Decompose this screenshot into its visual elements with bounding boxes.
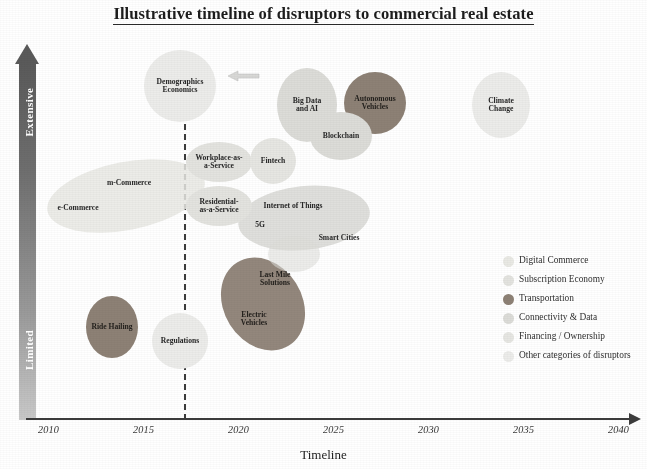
bubble-workplace-line2: a-Service bbox=[204, 161, 234, 170]
x-tick-2030: 2030 bbox=[417, 424, 440, 435]
x-tick-2025: 2025 bbox=[322, 424, 345, 435]
legend-item-other-categories: Other categories of disruptors bbox=[503, 350, 645, 362]
bubble-regulations-label: Regulations bbox=[161, 337, 199, 346]
bubble-mcommerce-label: m-Commerce bbox=[107, 179, 151, 188]
legend-swatch-transportation bbox=[503, 294, 514, 305]
legend-label-digital-commerce: Digital Commerce bbox=[519, 255, 589, 266]
bubble-5g-label: 5G bbox=[255, 221, 265, 230]
legend-swatch-digital-commerce bbox=[503, 256, 514, 267]
legend: Digital Commerce Subscription Economy Tr… bbox=[503, 255, 645, 369]
x-axis-arrowhead-icon bbox=[629, 413, 641, 425]
legend-swatch-financing-ownership bbox=[503, 332, 514, 343]
x-axis-title: Timeline bbox=[0, 447, 647, 463]
bubble-smartcities-label: Smart Cities bbox=[319, 234, 360, 243]
bubble-ridehailing-label: Ride Hailing bbox=[91, 323, 132, 332]
bubble-last-mile-solutions: Last Mile Solutions bbox=[248, 266, 302, 292]
bubble-demographics-line2: Economics bbox=[162, 85, 197, 94]
bubble-ride-hailing: Ride Hailing bbox=[86, 296, 138, 358]
bubble-electric-line2: Vehicles bbox=[241, 318, 267, 327]
bubble-demographics-economics: Demographics Economics bbox=[144, 50, 216, 122]
bubble-ecommerce-label: e-Commerce bbox=[57, 204, 98, 213]
x-tick-2020: 2020 bbox=[227, 424, 250, 435]
legend-label-subscription-economy: Subscription Economy bbox=[519, 274, 605, 285]
x-axis bbox=[26, 418, 630, 420]
bubble-5g: 5G bbox=[248, 216, 272, 234]
bubble-e-commerce: e-Commerce bbox=[46, 196, 110, 220]
bubble-autonomous-line2: Vehicles bbox=[362, 102, 388, 111]
bubble-blockchain-label: Blockchain bbox=[323, 132, 359, 141]
legend-swatch-other-categories bbox=[503, 351, 514, 362]
bubble-internet-of-things: Internet of Things bbox=[250, 196, 336, 216]
legend-swatch-connectivity-data bbox=[503, 313, 514, 324]
y-axis-label-extensive: Extensive bbox=[23, 77, 35, 147]
legend-item-transportation: Transportation bbox=[503, 293, 645, 305]
y-axis-label-limited: Limited bbox=[23, 315, 35, 385]
legend-item-connectivity-data: Connectivity & Data bbox=[503, 312, 645, 324]
bubble-electric-vehicles: Electric Vehicles bbox=[228, 306, 280, 332]
x-tick-2035: 2035 bbox=[512, 424, 535, 435]
chart-canvas: Illustrative timeline of disruptors to c… bbox=[0, 0, 647, 469]
legend-label-connectivity-data: Connectivity & Data bbox=[519, 312, 597, 323]
legend-item-subscription-economy: Subscription Economy bbox=[503, 274, 645, 286]
bubble-lastmile-line2: Solutions bbox=[260, 278, 290, 287]
x-tick-2040: 2040 bbox=[607, 424, 630, 435]
legend-label-other-categories: Other categories of disruptors bbox=[519, 350, 631, 361]
legend-item-digital-commerce: Digital Commerce bbox=[503, 255, 645, 267]
bubble-climate-line2: Change bbox=[489, 104, 514, 113]
legend-label-financing-ownership: Financing / Ownership bbox=[519, 331, 605, 342]
legend-item-financing-ownership: Financing / Ownership bbox=[503, 331, 645, 343]
bubble-bigdata-line2: and AI bbox=[296, 104, 318, 113]
chart-title-text: Illustrative timeline of disruptors to c… bbox=[113, 4, 533, 25]
bubble-residential-as-a-service: Residential- as-a-Service bbox=[186, 186, 252, 226]
bubble-blockchain: Blockchain bbox=[310, 112, 372, 160]
bubble-workplace-as-a-service: Workplace-as- a-Service bbox=[186, 142, 252, 182]
bubble-iot-label: Internet of Things bbox=[264, 202, 323, 211]
bubble-fintech-label: Fintech bbox=[261, 157, 285, 166]
bubble-smart-cities: Smart Cities bbox=[308, 228, 370, 248]
leftward-arrow-icon bbox=[226, 68, 260, 84]
bubble-regulations: Regulations bbox=[152, 313, 208, 369]
y-axis: Extensive Limited bbox=[16, 44, 38, 420]
bubble-climate-change: Climate Change bbox=[472, 72, 530, 138]
legend-label-transportation: Transportation bbox=[519, 293, 574, 304]
bubble-residential-line2: as-a-Service bbox=[199, 205, 238, 214]
bubble-m-commerce: m-Commerce bbox=[94, 170, 164, 196]
x-tick-2015: 2015 bbox=[132, 424, 155, 435]
present-day-divider bbox=[184, 104, 186, 420]
chart-title: Illustrative timeline of disruptors to c… bbox=[0, 4, 647, 24]
y-axis-arrowhead-icon bbox=[15, 44, 39, 64]
bubble-fintech: Fintech bbox=[250, 138, 296, 184]
legend-swatch-subscription-economy bbox=[503, 275, 514, 286]
x-tick-2010: 2010 bbox=[37, 424, 60, 435]
